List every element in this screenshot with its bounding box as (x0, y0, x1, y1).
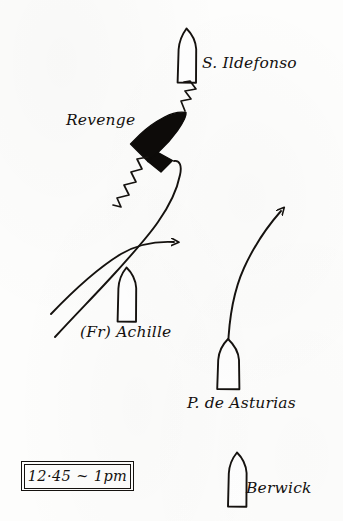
diagram-canvas: S. Ildefonso Revenge (Fr) Achille P. de … (0, 0, 343, 521)
ship-berwick (228, 453, 247, 507)
time-box: 12·45 ~ 1pm (21, 461, 134, 491)
track-achille-arrow (51, 242, 174, 314)
battle-sketch (0, 0, 343, 521)
track-asturias-arrow (228, 211, 281, 348)
ship-label-s-ildefonso: S. Ildefonso (202, 56, 297, 72)
ship-s-ildefonso (178, 29, 197, 83)
gunfire-zigzag-upper (181, 81, 196, 111)
ship-label-p-de-asturias: P. de Asturias (187, 396, 296, 412)
ship-label-berwick: Berwick (246, 481, 312, 497)
time-box-inner-border: 12·45 ~ 1pm (24, 464, 131, 489)
ship-label-fr-achille: (Fr) Achille (80, 325, 172, 341)
ship-fr-achille (118, 268, 137, 322)
ship-label-revenge: Revenge (66, 113, 135, 129)
gunfire-zigzag-lower (113, 157, 148, 207)
ship-p-de-asturias (217, 339, 239, 389)
time-label: 12·45 ~ 1pm (28, 468, 128, 484)
